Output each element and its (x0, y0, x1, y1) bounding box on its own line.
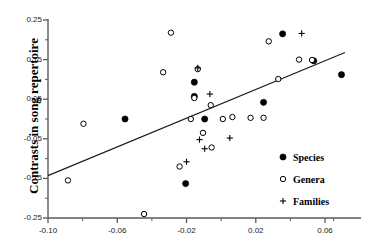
data-point-genera (192, 95, 197, 100)
data-point-genera (209, 145, 214, 150)
data-point-genera (160, 70, 165, 75)
legend-marker-genera (277, 173, 289, 185)
data-point-species (122, 116, 128, 122)
data-point-species (191, 79, 197, 85)
x-axis-tick-label: -0.10 (28, 226, 68, 235)
data-point-species (260, 99, 266, 105)
data-point-genera (177, 164, 182, 169)
data-point-genera (276, 76, 281, 81)
x-axis-tick-label: -0.02 (167, 226, 207, 235)
data-point-genera (65, 178, 70, 183)
data-point-genera (261, 115, 266, 120)
data-point-genera (280, 176, 285, 181)
y-axis-tick-label: -0.25 (10, 213, 42, 222)
y-axis-tick-label: -0.15 (10, 173, 42, 182)
data-point-species (280, 154, 286, 160)
legend-label-families: Families (293, 196, 329, 207)
x-axis-tick-label: 0.06 (305, 226, 345, 235)
y-axis-tick-label: 0.15 (10, 55, 42, 64)
data-point-genera (266, 39, 271, 44)
data-point-genera (248, 115, 253, 120)
data-point-genera (208, 102, 213, 107)
data-point-genera (168, 30, 173, 35)
series-families (183, 30, 304, 165)
data-point-species (202, 116, 208, 122)
y-axis-tick-label: 0.25 (10, 15, 42, 24)
y-axis-tick-label: -0.05 (10, 134, 42, 143)
data-point-genera (188, 116, 193, 121)
plot-canvas (0, 0, 366, 251)
data-point-genera (200, 130, 205, 135)
data-point-genera (141, 211, 146, 216)
data-point-genera (220, 116, 225, 121)
series-species (122, 31, 345, 187)
data-point-genera (309, 57, 314, 62)
data-point-genera (81, 121, 86, 126)
scatter-plot-figure: Contrasts in song repertoire 0.250.150.0… (0, 0, 366, 251)
data-point-genera (230, 114, 235, 119)
data-point-species (183, 180, 189, 186)
y-axis-tick-label: 0.05 (10, 94, 42, 103)
legend-marker-families (277, 195, 289, 207)
data-point-species (280, 31, 286, 37)
data-point-genera (296, 57, 301, 62)
data-point-species (338, 72, 344, 78)
legend-label-genera: Genera (293, 174, 325, 185)
series-genera (65, 30, 315, 217)
legend-marker-species (277, 151, 289, 163)
x-axis-tick-label: 0.02 (236, 226, 276, 235)
legend-label-species: Species (293, 152, 324, 163)
x-axis-tick-label: -0.06 (97, 226, 137, 235)
